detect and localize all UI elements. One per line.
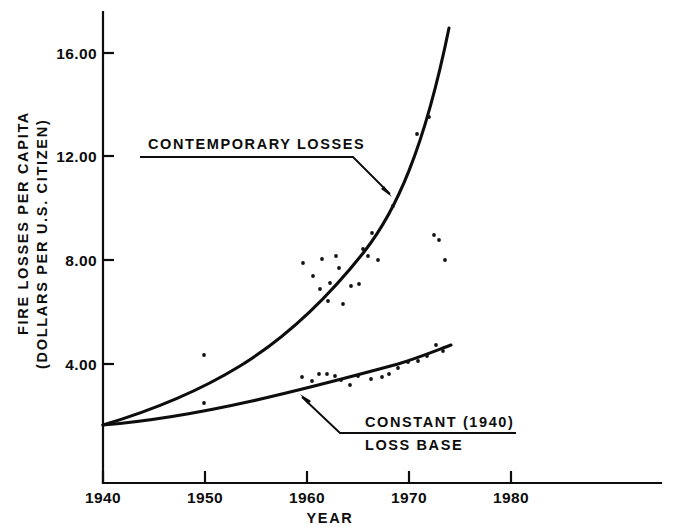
data-point [406,360,410,364]
y-tick-labels: 16.00 12.00 8.00 4.00 [56,45,97,373]
data-point [387,372,391,376]
x-tick-label-1950: 1950 [187,489,223,506]
axes-group [103,12,661,483]
data-point [311,274,315,278]
annotation-constant-loss-base-line-2: LOSS BASE [365,437,463,453]
data-point [380,375,384,379]
data-point [202,401,206,405]
data-point [300,375,304,379]
constant-loss-base-points [202,343,445,405]
data-point [328,281,332,285]
annotation-constant-loss-base-arrow-icon [300,394,311,404]
fire-losses-per-capita-chart: 16.00 12.00 8.00 4.00 1940 1950 1960 197… [0,0,673,530]
y-tick-label-8: 8.00 [65,252,97,269]
x-tick-label-1960: 1960 [289,489,325,506]
data-point [370,231,374,235]
annotation-contemporary-losses: CONTEMPORARY LOSSES [140,136,392,197]
annotation-contemporary-losses-leader [140,157,390,194]
data-point [349,284,353,288]
data-point [339,378,343,382]
y-axis-title: FIRE LOSSES PER CAPITA (DOLLARS PER U.S.… [15,111,50,369]
data-point [341,302,345,306]
data-point [427,115,431,119]
x-tick-marks [103,471,511,483]
data-point [320,257,324,261]
x-axis-title: YEAR [306,510,353,526]
y-tick-label-16: 16.00 [56,45,97,62]
x-tick-labels: 1940 1950 1960 1970 1980 [85,489,529,506]
data-point [356,374,360,378]
data-point [415,132,419,136]
chart-svg: 16.00 12.00 8.00 4.00 1940 1950 1960 197… [0,0,673,530]
data-point [348,383,352,387]
data-point [432,233,436,237]
data-point [361,247,365,251]
data-point [376,258,380,262]
annotation-constant-loss-base: CONSTANT (1940) LOSS BASE [300,394,516,453]
data-point [301,261,305,265]
y-axis-title-line-1: FIRE LOSSES PER CAPITA [15,111,31,335]
data-point [202,353,206,357]
annotation-contemporary-losses-label: CONTEMPORARY LOSSES [148,136,365,152]
data-point [391,204,395,208]
x-tick-label-1970: 1970 [391,489,427,506]
constant-loss-base-curve [103,345,451,425]
annotation-constant-loss-base-line-1: CONSTANT (1940) [365,414,514,430]
data-point [326,299,330,303]
data-point [369,377,373,381]
y-tick-marks [103,53,114,364]
x-tick-label-1980: 1980 [493,489,529,506]
data-point [317,372,321,376]
data-point [441,349,445,353]
data-point [434,343,438,347]
data-point [337,266,341,270]
data-point [333,374,337,378]
data-point [325,372,329,376]
x-tick-label-1940: 1940 [85,489,121,506]
data-point [396,366,400,370]
data-point [437,238,441,242]
data-point [334,254,338,258]
y-tick-label-12: 12.00 [56,148,97,165]
data-point [416,359,420,363]
data-point [357,282,361,286]
data-point [443,258,447,262]
data-point [310,379,314,383]
annotation-contemporary-losses-arrow-icon [381,186,392,197]
y-axis-title-line-2: (DOLLARS PER U.S. CITIZEN) [34,119,50,369]
data-point [366,254,370,258]
data-point [425,354,429,358]
y-tick-label-4: 4.00 [65,356,97,373]
data-point [318,287,322,291]
